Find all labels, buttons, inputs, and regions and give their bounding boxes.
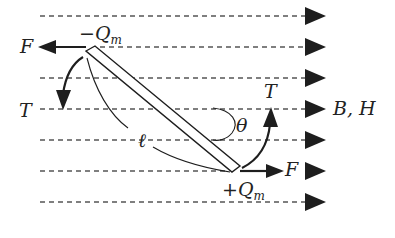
torque-label-left: T [19, 101, 32, 120]
pole-sign: + [222, 178, 238, 200]
field-arrow-icon [305, 131, 326, 149]
pole-subscript: m [111, 33, 122, 47]
field-arrow-icon [305, 7, 326, 25]
field-arrow-icon [305, 100, 326, 118]
pole-symbol: Q [238, 178, 254, 200]
field-arrow-icon [305, 69, 326, 87]
pole-subscript: m [254, 189, 265, 203]
arrow-down-icon [56, 90, 71, 110]
diagram-canvas [0, 0, 395, 238]
field-label: B, H [333, 99, 376, 118]
torque-arrow-left [56, 57, 83, 110]
field-arrow-icon [305, 38, 326, 56]
positive-pole-label: +Qm [222, 180, 265, 202]
torque-label-right: T [264, 82, 277, 101]
pole-sign: − [79, 22, 95, 44]
field-arrow-icon [305, 193, 326, 211]
field-arrowheads [305, 7, 326, 211]
angle-arc [213, 108, 235, 140]
magnet-torque-diagram: F −Qm T ℓ θ T F +Qm B, H [0, 0, 395, 238]
arrow-up-icon [263, 107, 278, 127]
field-arrow-icon [305, 162, 326, 180]
arrow-right-icon [266, 164, 284, 178]
angle-label: θ [236, 116, 247, 135]
force-label-right: F [285, 160, 298, 179]
force-label-left: F [20, 37, 33, 56]
length-label: ℓ [138, 131, 146, 150]
negative-pole-label: −Qm [79, 24, 122, 46]
pole-symbol: Q [95, 22, 111, 44]
arrow-left-icon [38, 40, 56, 54]
